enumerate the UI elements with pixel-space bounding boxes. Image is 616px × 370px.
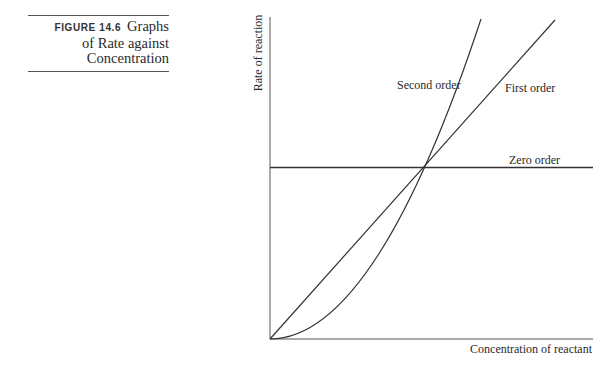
- first-order-line: [270, 20, 555, 339]
- rate-concentration-chart: Rate of reaction Concentration of reacta…: [0, 0, 616, 370]
- second-order-curve: [270, 19, 481, 339]
- x-axis-label: Concentration of reactant: [470, 342, 593, 356]
- first-order-label: First order: [505, 81, 555, 95]
- second-order-label: Second order: [397, 78, 461, 92]
- y-axis-label: Rate of reaction: [251, 15, 265, 92]
- zero-order-label: Zero order: [509, 153, 560, 167]
